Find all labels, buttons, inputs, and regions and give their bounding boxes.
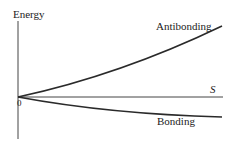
antibonding-label: Antibonding bbox=[156, 20, 212, 32]
antibonding-curve bbox=[18, 26, 222, 97]
energy-diagram: Energy 0 S Antibonding Bonding bbox=[0, 0, 232, 147]
y-axis-label: Energy bbox=[13, 8, 45, 20]
origin-label: 0 bbox=[17, 98, 22, 108]
bonding-label: Bonding bbox=[157, 115, 195, 127]
bonding-curve bbox=[18, 97, 222, 117]
x-axis-label: S bbox=[210, 83, 216, 95]
